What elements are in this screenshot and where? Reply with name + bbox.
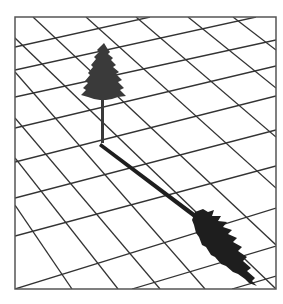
tree-trunk [101,95,104,143]
tree-shadow-figure [0,0,283,304]
figure-canvas [0,0,283,304]
